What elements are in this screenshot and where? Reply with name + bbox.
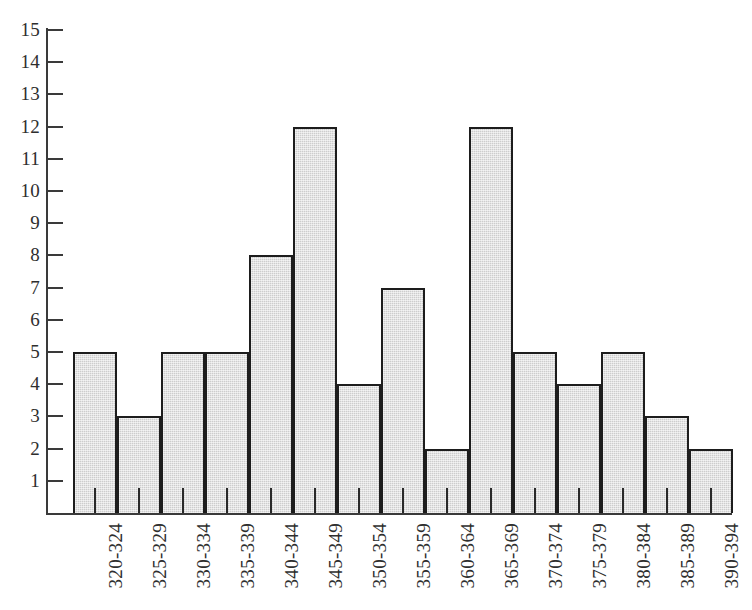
x-axis-tick-label: 365-369 [501, 523, 523, 610]
x-axis-tick [446, 488, 448, 513]
y-axis-tick [48, 126, 63, 128]
y-axis-tick-label: 3 [2, 406, 40, 425]
y-axis-tick-label: 11 [2, 149, 40, 168]
x-axis-tick-label: 380-384 [633, 523, 655, 610]
x-axis-tick-label: 385-389 [677, 523, 699, 610]
x-axis-tick-label: 390-394 [721, 523, 743, 610]
y-axis-tick [48, 480, 63, 482]
x-axis-tick [358, 488, 360, 513]
x-axis-tick-label: 330-334 [193, 523, 215, 610]
x-axis-tick [666, 488, 668, 513]
x-axis-tick-label: 360-364 [457, 523, 479, 610]
x-axis-tick-label: 340-344 [281, 523, 303, 610]
x-axis-tick [578, 488, 580, 513]
y-axis-tick-label: 4 [2, 374, 40, 393]
y-axis-tick-label: 9 [2, 213, 40, 232]
x-axis-tick-label: 355-359 [413, 523, 435, 610]
y-axis-tick-label: 6 [2, 310, 40, 329]
y-axis-tick-label: 12 [2, 117, 40, 136]
x-axis-tick-label: 370-374 [545, 523, 567, 610]
y-axis-tick-label: 8 [2, 245, 40, 264]
y-axis-tick [48, 254, 63, 256]
y-axis-tick [48, 190, 63, 192]
y-axis-tick-label: 13 [2, 84, 40, 103]
y-axis-tick [48, 222, 63, 224]
y-axis-tick [48, 61, 63, 63]
histogram-bar [293, 127, 337, 513]
x-axis-tick [94, 488, 96, 513]
x-axis-tick [138, 488, 140, 513]
x-axis-tick [710, 488, 712, 513]
x-axis-tick [402, 488, 404, 513]
y-axis-tick [48, 383, 63, 385]
histogram-bar [249, 255, 293, 513]
y-axis-tick-label: 7 [2, 278, 40, 297]
y-axis-tick [48, 448, 63, 450]
x-axis-tick [226, 488, 228, 513]
x-axis-tick [182, 488, 184, 513]
x-axis-tick [490, 488, 492, 513]
y-axis-tick [48, 351, 63, 353]
x-axis-tick-label: 345-349 [325, 523, 347, 610]
x-axis-tick-label: 325-329 [149, 523, 171, 610]
x-axis-tick [314, 488, 316, 513]
histogram-bar [469, 127, 513, 513]
x-axis-tick-label: 375-379 [589, 523, 611, 610]
x-axis-line [46, 513, 732, 515]
x-axis-tick [270, 488, 272, 513]
x-axis-tick-label: 320-324 [105, 523, 127, 610]
y-axis-tick [48, 158, 63, 160]
y-axis-tick [48, 93, 63, 95]
histogram-bar [381, 288, 425, 513]
y-axis-tick-label: 10 [2, 181, 40, 200]
y-axis-tick-label: 14 [2, 52, 40, 71]
y-axis-tick [48, 415, 63, 417]
x-axis-tick-label: 335-339 [237, 523, 259, 610]
y-axis-tick-label: 5 [2, 342, 40, 361]
y-axis-tick-label: 15 [2, 20, 40, 39]
y-axis-tick [48, 29, 63, 31]
x-axis-tick [534, 488, 536, 513]
y-axis-tick [48, 319, 63, 321]
y-axis-line [46, 28, 48, 515]
histogram-chart: 123456789101112131415 320-324325-329330-… [0, 0, 752, 610]
y-axis-tick [48, 287, 63, 289]
y-axis-tick-label: 2 [2, 439, 40, 458]
plot-area: 123456789101112131415 320-324325-329330-… [0, 0, 752, 610]
x-axis-tick-label: 350-354 [369, 523, 391, 610]
x-axis-tick [622, 488, 624, 513]
y-axis-tick-label: 1 [2, 471, 40, 490]
